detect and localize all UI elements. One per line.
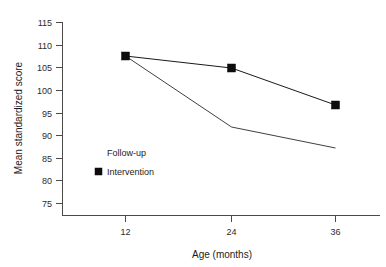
y-tick-label-95: 95 bbox=[42, 109, 52, 119]
data-point-marker-36 bbox=[332, 101, 340, 109]
legend-marker-intervention-icon bbox=[95, 168, 102, 175]
x-tick-label-24: 24 bbox=[226, 227, 236, 237]
y-tick-label-90: 90 bbox=[42, 131, 52, 141]
y-tick-label-110: 110 bbox=[38, 41, 52, 51]
y-tick-label-100: 100 bbox=[37, 86, 52, 96]
y-tick-label-115: 115 bbox=[38, 18, 52, 28]
x-tick-label-12: 12 bbox=[120, 227, 130, 237]
chart-container: 115 110 105 100 95 90 85 80 75 12 24 36 … bbox=[0, 0, 386, 267]
chart-background bbox=[0, 0, 386, 267]
legend-label-intervention: Intervention bbox=[107, 167, 154, 177]
y-axis-title: Mean standardized score bbox=[13, 61, 24, 174]
y-tick-label-75: 75 bbox=[42, 199, 52, 209]
y-tick-label-105: 105 bbox=[37, 63, 52, 73]
y-tick-label-85: 85 bbox=[42, 154, 52, 164]
line-chart: 115 110 105 100 95 90 85 80 75 12 24 36 … bbox=[0, 0, 386, 267]
x-tick-label-36: 36 bbox=[330, 227, 340, 237]
x-axis-title: Age (months) bbox=[192, 249, 252, 260]
y-tick-label-80: 80 bbox=[42, 176, 52, 186]
data-point-marker-24 bbox=[228, 64, 236, 72]
legend-label-follow-up: Follow-up bbox=[107, 148, 146, 158]
data-point-marker-12 bbox=[122, 52, 130, 60]
